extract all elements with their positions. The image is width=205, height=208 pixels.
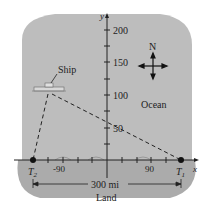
x-axis-label: x xyxy=(192,164,197,174)
y-tick-label-100: 100 xyxy=(113,90,128,101)
y-tick-label-50: 50 xyxy=(113,123,123,134)
ship-label: Ship xyxy=(58,64,76,75)
x-axis-arrow-icon xyxy=(194,158,199,162)
y-tick-label-150: 150 xyxy=(113,57,128,68)
y-tick-label-200: 200 xyxy=(113,25,128,36)
t2-point xyxy=(30,157,36,163)
ship-location-diagram: y x 200 150 100 50 -90 90 T2 T1 Ship N O… xyxy=(0,0,205,208)
x-tick-label-90: 90 xyxy=(145,164,155,174)
t1-point xyxy=(178,157,184,163)
distance-label: 300 mi xyxy=(91,179,119,190)
ocean-label: Ocean xyxy=(141,99,167,110)
north-label: N xyxy=(149,41,156,52)
x-tick-label-neg90: -90 xyxy=(53,164,65,174)
y-axis-label: y xyxy=(99,11,104,21)
land-label: Land xyxy=(96,192,117,203)
